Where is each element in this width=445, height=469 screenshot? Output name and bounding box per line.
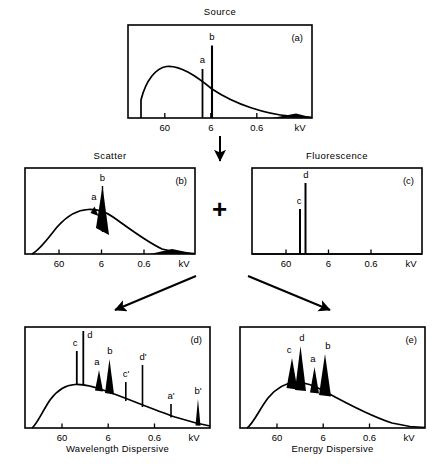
panel-a-peak-label-a: a (200, 54, 206, 65)
panel-b-xtick-6: 6 (99, 258, 104, 269)
panel-d-wavelength-dispersive: c d a b c' d' a' b' (d) 60 6 0.6 kV (25, 327, 210, 443)
panel-b-xtick-60: 60 (54, 258, 65, 269)
panel-e-xtick-6: 6 (321, 432, 326, 443)
panel-e-frame (240, 327, 425, 428)
panel-e-xtick-60: 60 (272, 432, 283, 443)
panel-e-peak-label-d: d (299, 332, 304, 343)
panel-a-source: a b (a) 60 6 0.6 kV (128, 25, 312, 133)
panel-e-peak-label-a: a (310, 353, 316, 364)
panel-d-xtick-0.6: 0.6 (148, 432, 161, 443)
panel-c-fluorescence: c d (c) 60 6 0.6 kV (252, 168, 422, 269)
panel-a-peak-label-b: b (209, 31, 214, 42)
panel-b-xtick-0.6: 0.6 (137, 258, 150, 269)
panel-a-xtick-6: 6 (208, 122, 213, 133)
xrf-spectra-figure: Source Scatter Fluorescence + Wavelength… (0, 0, 445, 469)
panel-c-label: (c) (403, 175, 414, 186)
panel-d-peak-label-a-prime: a' (167, 390, 174, 401)
panel-c-axis-unit: kV (405, 258, 417, 269)
panel-a-axis-unit: kV (294, 122, 306, 133)
panel-e-peak-label-b: b (325, 340, 330, 351)
panel-b-peak-label-b: b (100, 172, 105, 183)
panel-b-label: (b) (175, 175, 187, 186)
panel-a-xtick-60: 60 (160, 122, 171, 133)
panel-c-xtick-60: 60 (281, 258, 292, 269)
panel-c-xtick-0.6: 0.6 (364, 258, 377, 269)
panel-b-frame (25, 168, 195, 254)
arrow-to-energy-dispersive (248, 276, 330, 310)
panel-c-peak-label-c: c (297, 195, 302, 206)
panel-d-xtick-60: 60 (57, 432, 68, 443)
panel-d-frame (25, 327, 210, 428)
panel-e-axis-unit: kV (403, 432, 415, 443)
panel-a-label: (a) (291, 32, 303, 43)
arrow-to-wavelength-dispersive (115, 276, 196, 310)
panel-d-peak-label-d-prime: d' (139, 351, 146, 362)
panel-b-scatter: a b (b) 60 6 0.6 kV (25, 168, 195, 269)
panel-d-axis-unit: kV (188, 432, 200, 443)
panel-d-peak-label-c-prime: c' (123, 368, 130, 379)
panel-c-xtick-6: 6 (326, 258, 331, 269)
panel-e-xtick-0.6: 0.6 (363, 432, 376, 443)
panel-e-peak-label-c: c (287, 344, 292, 355)
panel-c-peak-label-d: d (303, 169, 308, 180)
panel-d-label: (d) (190, 334, 202, 345)
panel-c-frame (252, 168, 422, 254)
panel-d-peak-label-d: d (87, 329, 92, 340)
panel-b-axis-unit: kV (178, 258, 190, 269)
panel-a-xtick-0.6: 0.6 (250, 122, 263, 133)
panel-d-xtick-6: 6 (106, 432, 111, 443)
panel-d-peak-label-a: a (94, 356, 100, 367)
panel-d-peak-label-b: b (107, 345, 112, 356)
panel-d-peak-label-c: c (73, 337, 78, 348)
spectra-svg-canvas: a b (a) 60 6 0.6 kV (0, 0, 445, 469)
panel-e-energy-dispersive: c d a b (e) 60 6 0.6 kV (240, 327, 425, 443)
panel-b-peak-label-a: a (91, 191, 97, 202)
panel-e-label: (e) (405, 334, 417, 345)
panel-d-peak-label-b-prime: b' (194, 385, 201, 396)
